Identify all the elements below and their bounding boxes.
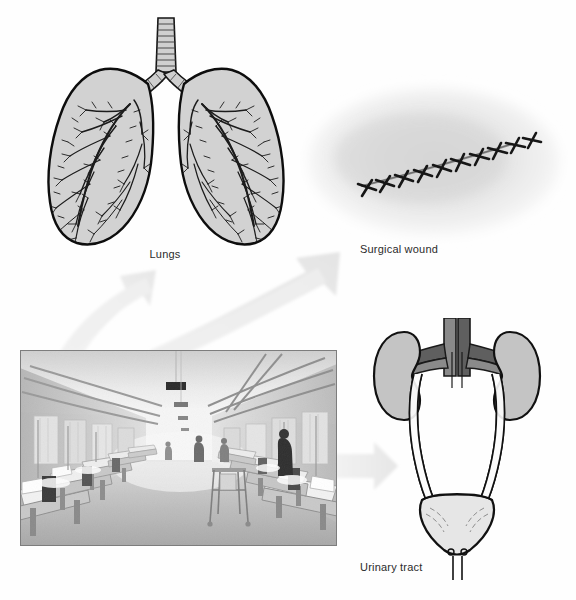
urinary-tract-illustration <box>352 318 562 583</box>
left-lung <box>48 69 153 246</box>
caption-urinary-tract: Urinary tract <box>360 561 576 573</box>
right-ureter <box>480 374 505 500</box>
arrow-to-lungs <box>60 270 156 356</box>
wound-skin-field <box>308 88 560 236</box>
surgical-wound-photo <box>300 70 568 265</box>
lungs-illustration <box>30 12 302 272</box>
hospital-ward-image <box>20 350 337 546</box>
left-ureter <box>410 374 435 500</box>
figure-canvas: Lungs Surgical wound Urinary tract <box>0 0 576 600</box>
right-lung <box>179 69 284 246</box>
hospital-ward-photograph <box>20 350 337 546</box>
caption-surgical-wound: Surgical wound <box>360 243 576 255</box>
lungs-panel <box>30 12 302 272</box>
bladder <box>420 494 494 555</box>
trachea <box>156 18 176 72</box>
caption-lungs: Lungs <box>0 248 330 260</box>
surgical-wound-panel <box>300 70 568 265</box>
urinary-tract-panel <box>352 318 562 583</box>
